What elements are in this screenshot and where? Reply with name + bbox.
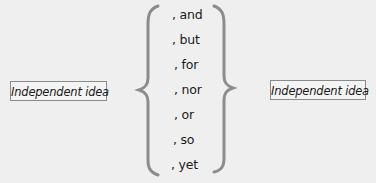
conjunction-but: , but — [166, 30, 210, 55]
right-independent-idea-box: Independent idea — [270, 80, 366, 100]
conjunction-and: , and — [166, 5, 210, 30]
conjunction-for: , for — [166, 55, 210, 80]
conjunction-or: , or — [166, 105, 210, 130]
left-brace-icon — [139, 6, 158, 175]
conjunction-list: , and , but , for , nor , or , so , yet — [166, 5, 210, 180]
conjunction-so: , so — [166, 130, 210, 155]
conjunction-nor: , nor — [166, 80, 210, 105]
conjunction-yet: , yet — [166, 155, 210, 180]
right-brace-icon — [214, 6, 233, 172]
